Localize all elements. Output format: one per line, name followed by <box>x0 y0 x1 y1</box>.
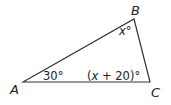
angle-c-rest: + 20) <box>98 69 134 83</box>
angle-c-degree: ° <box>134 69 140 83</box>
angle-a-label: 30° <box>43 69 63 83</box>
vertex-label-a: A <box>9 82 19 97</box>
angle-c-variable: x <box>91 69 99 83</box>
angle-b-degree: ° <box>126 24 132 38</box>
triangle-diagram: A B C 30° x° (x + 20)° <box>0 0 171 105</box>
angle-b-variable: x <box>118 24 126 38</box>
vertex-label-b: B <box>131 3 140 18</box>
vertex-label-c: C <box>151 85 161 100</box>
angle-b-label: x° <box>118 24 132 38</box>
angle-c-label: (x + 20)° <box>87 69 140 83</box>
